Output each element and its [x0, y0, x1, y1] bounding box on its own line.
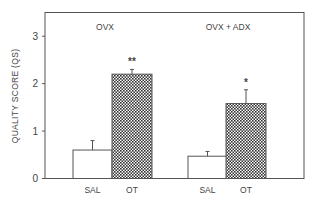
y-axis: 0123 [32, 31, 45, 184]
y-tick-label: 2 [32, 78, 38, 89]
significance-marker: * [244, 77, 248, 88]
x-category-label: OT [126, 185, 138, 195]
bar-sal [188, 156, 227, 178]
bar-ot [112, 74, 152, 178]
group-label: OVX + ADX [206, 22, 251, 32]
y-axis-label: QUALITY SCORE (QS) [10, 49, 20, 144]
group-label: OVX [96, 22, 114, 32]
bar-ot [226, 104, 266, 179]
y-tick-label: 3 [32, 31, 38, 42]
bars [73, 69, 266, 178]
y-tick-label: 1 [32, 126, 38, 137]
y-tick-label: 0 [32, 173, 38, 184]
bar-sal [73, 150, 112, 178]
significance-marker: ** [128, 56, 136, 67]
x-category-label: SAL [199, 185, 215, 195]
x-category-label: SAL [84, 185, 100, 195]
bar-chart: 0123 OVXSAL**OTOVX + ADXSAL*OT QUALITY S… [0, 0, 320, 202]
x-category-label: OT [240, 185, 252, 195]
